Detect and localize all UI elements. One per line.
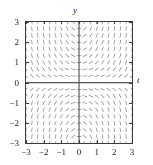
axis-tick xyxy=(25,62,29,63)
y-tick-label: −2 xyxy=(2,119,19,128)
x-tick-label: 0 xyxy=(71,148,87,157)
y-tick-label: 0 xyxy=(2,79,19,88)
axis-tick xyxy=(61,140,62,144)
y-tick-label: 3 xyxy=(2,18,19,27)
x-tick-label: −2 xyxy=(36,148,52,157)
axis-tick xyxy=(25,83,29,84)
x-tick-label: 2 xyxy=(106,148,122,157)
plot-area xyxy=(25,21,133,144)
x-tick-label: −1 xyxy=(53,148,69,157)
y-tick-label: −3 xyxy=(2,139,19,148)
axis-tick xyxy=(114,140,115,144)
axis-tick xyxy=(25,143,29,144)
x-tick-label: −3 xyxy=(18,148,34,157)
axis-tick xyxy=(79,21,80,24)
axis-tick xyxy=(25,22,29,23)
x-tick-label: 3 xyxy=(124,148,140,157)
axis-tick xyxy=(129,143,132,144)
y-axis-label: y xyxy=(73,6,77,15)
axis-tick xyxy=(129,42,132,43)
axis-tick xyxy=(129,22,132,23)
axis-tick xyxy=(25,123,29,124)
axis-tick xyxy=(97,21,98,24)
y-tick-label: −1 xyxy=(2,99,19,108)
axis-tick xyxy=(129,103,132,104)
axis-tick xyxy=(114,21,115,24)
axis-tick xyxy=(129,123,132,124)
axis-tick xyxy=(129,62,132,63)
axis-tick xyxy=(44,21,45,24)
axis-tick xyxy=(44,140,45,144)
axis-tick xyxy=(129,83,132,84)
axis-tick xyxy=(25,103,29,104)
axis-tick xyxy=(79,140,80,144)
direction-field-canvas xyxy=(26,22,132,143)
axis-tick xyxy=(61,21,62,24)
x-tick-label: 1 xyxy=(89,148,105,157)
axis-tick xyxy=(97,140,98,144)
y-tick-label: 1 xyxy=(2,58,19,67)
direction-field-figure: y t −3 −2 −1 0 1 2 3 3 2 1 0 −1 −2 −3 xyxy=(0,0,153,165)
axis-tick xyxy=(25,42,29,43)
axis-tick xyxy=(132,21,133,24)
axis-tick xyxy=(132,140,133,144)
t-axis-label: t xyxy=(137,76,140,85)
y-tick-label: 2 xyxy=(2,38,19,47)
